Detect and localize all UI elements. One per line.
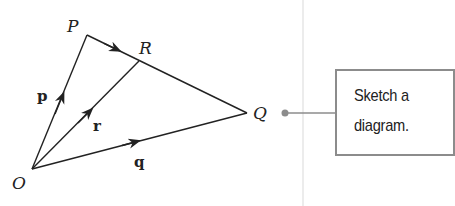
arrow-pr-icon: [104, 43, 116, 49]
vector-label-q: q: [134, 153, 145, 171]
callout-text: Sketch a diagram.: [354, 81, 409, 141]
point-label-o: O: [12, 173, 26, 193]
arrow-p-icon: [55, 97, 62, 114]
point-label-r: R: [138, 38, 152, 58]
vector-label-p: p: [37, 87, 48, 105]
arrow-r-icon: [78, 112, 89, 123]
point-label-q: Q: [253, 103, 267, 123]
callout-line-1: Sketch a: [354, 81, 409, 111]
point-label-p: P: [66, 16, 79, 36]
arrow-q-icon: [122, 142, 135, 146]
callout-line-2: diagram.: [354, 111, 409, 141]
vector-label-r: r: [93, 117, 102, 135]
callout-box: Sketch a diagram.: [335, 69, 455, 156]
